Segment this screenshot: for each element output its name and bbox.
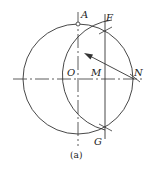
tick-g bbox=[99, 124, 112, 131]
point-a-marker bbox=[76, 22, 80, 26]
label-m: M bbox=[90, 67, 102, 78]
label-a: A bbox=[80, 9, 88, 20]
arrowhead-icon bbox=[84, 53, 93, 60]
label-o: O bbox=[67, 67, 75, 78]
label-n: N bbox=[133, 67, 144, 78]
tick-f bbox=[99, 27, 112, 34]
label-g: G bbox=[94, 136, 102, 147]
figure-caption: (a) bbox=[70, 150, 82, 160]
construction-diagram: A F O M N G (a) bbox=[0, 0, 152, 175]
label-f: F bbox=[105, 12, 114, 23]
